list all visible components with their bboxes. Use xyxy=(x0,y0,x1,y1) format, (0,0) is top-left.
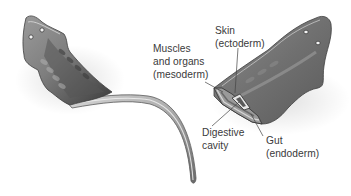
whole-flatworm xyxy=(15,16,196,183)
label-line: Muscles xyxy=(153,42,208,55)
flatworm-diagram: Muscles and organs (mesoderm) Skin (ecto… xyxy=(0,0,351,196)
label-line: (ectoderm) xyxy=(215,37,265,50)
label-line: (endoderm) xyxy=(266,147,319,160)
label-digestive-cavity: Digestive cavity xyxy=(202,126,244,152)
label-line: (mesoderm) xyxy=(153,68,208,81)
illustration xyxy=(0,0,351,196)
label-mesoderm: Muscles and organs (mesoderm) xyxy=(153,42,208,81)
label-endoderm: Gut (endoderm) xyxy=(266,134,319,160)
label-line: cavity xyxy=(202,139,244,152)
label-line: Gut xyxy=(266,134,319,147)
label-line: and organs xyxy=(153,55,208,68)
label-ectoderm: Skin (ectoderm) xyxy=(215,24,265,50)
label-line: Skin xyxy=(215,24,265,37)
label-line: Digestive xyxy=(202,126,244,139)
